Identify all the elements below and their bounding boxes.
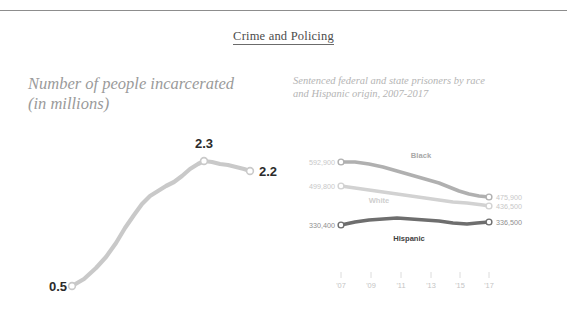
start-value-white: 499,800 (309, 182, 335, 191)
chart-panel-incarceration: Number of people incarcerated (in millio… (28, 74, 278, 299)
chart-title-prisoners-by-race: Sentenced federal and state prisoners by… (293, 74, 551, 100)
start-value-black: 592,900 (309, 158, 335, 167)
series-line-hispanic (341, 218, 489, 225)
chart-title-line-1: Number of people incarcerated (28, 74, 278, 94)
x-axis-ticks (341, 272, 489, 278)
start-marker-white (338, 183, 344, 189)
x-tick-17: '17 (484, 281, 494, 290)
end-value-hispanic: 336,500 (496, 218, 522, 227)
x-tick-15: '15 (455, 281, 465, 290)
series-label-black: Black (411, 151, 432, 160)
page-title: Crime and Policing (233, 29, 334, 45)
top-divider-rule (0, 10, 567, 11)
x-tick-11: '11 (396, 281, 405, 290)
series-line-black (341, 162, 489, 197)
x-tick-13: '13 (426, 281, 436, 290)
series-label-white: White (369, 196, 390, 205)
end-marker-hispanic (486, 219, 492, 225)
end-marker-black (486, 194, 492, 200)
start-value-hispanic: 330,400 (309, 221, 335, 230)
data-label-2-2: 2.2 (259, 164, 277, 179)
data-point-marker-2016 (247, 168, 254, 175)
start-marker-hispanic (338, 222, 344, 228)
prisoners-by-race-line-chart: 592,900 499,800 330,400 475,900 436,500 … (293, 108, 551, 300)
x-tick-09: '09 (366, 281, 376, 290)
incarceration-line-chart: 0.5 2.3 2.2 1980 2008 2016 (28, 116, 278, 296)
series-label-hispanic: Hispanic (393, 234, 425, 243)
data-label-0-5: 0.5 (49, 279, 67, 294)
series-line-white (341, 186, 489, 206)
start-marker-black (338, 159, 344, 165)
x-tick-07: '07 (336, 281, 346, 290)
data-point-marker-2008 (201, 158, 208, 165)
data-point-marker-1980 (69, 283, 76, 290)
chart-subtitle-line-1: Sentenced federal and state prisoners by… (293, 74, 551, 87)
end-value-black: 475,900 (496, 193, 522, 202)
end-value-white: 436,500 (496, 202, 522, 211)
end-marker-white (486, 203, 492, 209)
chart-title-line-2: (in millions) (28, 94, 278, 114)
incarceration-trend-line (72, 161, 250, 286)
page-title-container: Crime and Policing (0, 26, 567, 45)
chart-panel-prisoners-by-race: Sentenced federal and state prisoners by… (293, 74, 551, 299)
chart-subtitle-line-2: and Hispanic origin, 2007-2017 (293, 87, 551, 100)
data-label-2-3: 2.3 (195, 136, 213, 151)
chart-title-incarceration: Number of people incarcerated (in millio… (28, 74, 278, 114)
